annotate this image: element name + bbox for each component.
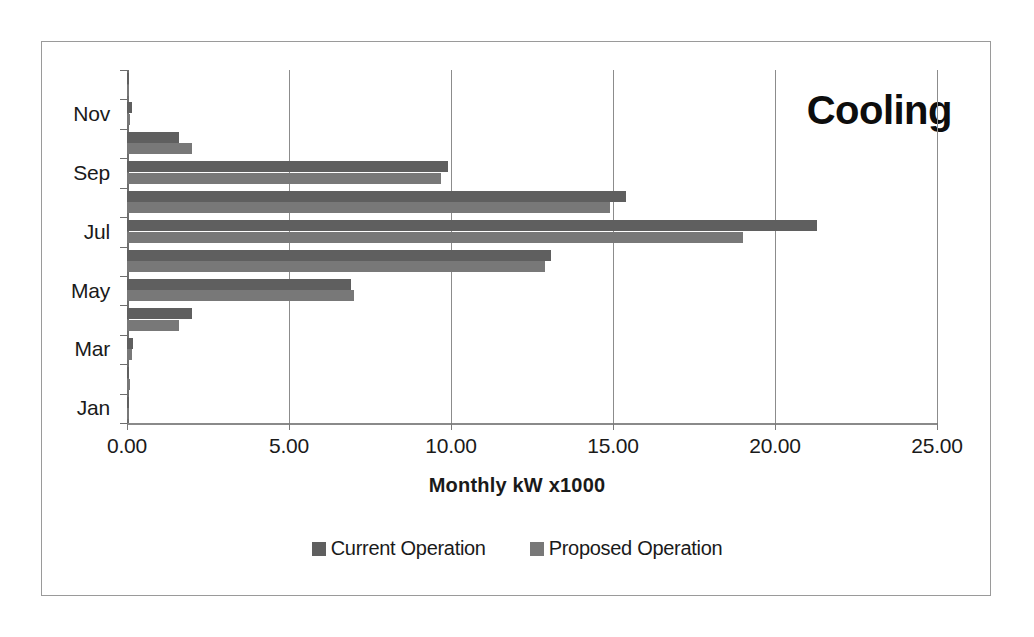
y-axis-tick [120,99,127,100]
y-axis-tick [120,247,127,248]
x-axis-label-5: 5.00 [269,434,309,458]
bar-aug-proposed [127,202,610,213]
legend-swatch-icon-proposed [530,542,544,556]
y-axis-tick [120,217,127,218]
x-axis-tick-25 [937,423,938,430]
bar-group-jun [127,247,937,276]
bar-jun-proposed [127,261,545,272]
bar-dec-proposed [127,85,129,96]
x-axis-tick-20 [775,423,776,430]
bar-apr-current [127,308,192,319]
bar-may-proposed [127,290,354,301]
y-axis-label-may: May [71,279,110,303]
y-axis-tick [120,394,127,395]
gridline-25 [937,70,938,423]
x-axis-label-20: 20.00 [749,434,801,458]
y-axis-label-jan: Jan [77,396,110,420]
bar-group-feb [127,364,937,393]
chart-legend: Current OperationProposed Operation [42,537,992,560]
x-axis-label-0: 0.00 [107,434,147,458]
plot-area [127,70,937,423]
bar-group-apr [127,305,937,334]
x-axis-label-25: 25.00 [911,434,963,458]
bar-nov-proposed [127,114,130,125]
y-axis-tick [120,158,127,159]
y-axis-tick [120,276,127,277]
bar-jan-proposed [127,408,129,419]
y-axis-tick [120,423,127,424]
x-axis-tick-15 [613,423,614,430]
legend-item-proposed[interactable]: Proposed Operation [530,537,723,560]
x-axis-label-15: 15.00 [587,434,639,458]
bar-jul-proposed [127,232,743,243]
bar-group-dec [127,70,937,99]
y-axis-tick [120,335,127,336]
bar-group-sep [127,158,937,187]
bar-jul-current [127,220,817,231]
bar-feb-current [127,367,129,378]
bar-dec-current [127,73,129,84]
x-axis-title: Monthly kW x1000 [42,474,992,497]
y-axis-tick [120,129,127,130]
y-axis-label-nov: Nov [73,102,110,126]
bar-group-jan [127,394,937,423]
x-axis-tick-0 [127,423,128,430]
y-axis-tick [120,364,127,365]
bar-oct-proposed [127,143,192,154]
bar-group-mar [127,335,937,364]
bar-jan-current [127,397,129,408]
bar-aug-current [127,191,626,202]
y-axis-tick [120,188,127,189]
y-axis-tick [120,70,127,71]
bar-group-jul [127,217,937,246]
legend-label-proposed: Proposed Operation [549,537,723,560]
y-axis-label-jul: Jul [84,220,110,244]
bar-mar-proposed [127,349,132,360]
bar-may-current [127,279,351,290]
bar-apr-proposed [127,320,179,331]
bar-nov-current [127,102,132,113]
bar-group-nov [127,99,937,128]
x-axis-tick-5 [289,423,290,430]
y-axis-labels: JanMarMayJulSepNov [42,70,116,423]
y-axis-label-mar: Mar [74,337,110,361]
legend-swatch-icon-current [312,542,326,556]
bar-group-may [127,276,937,305]
y-axis-label-sep: Sep [73,161,110,185]
bar-jun-current [127,250,551,261]
bar-feb-proposed [127,379,130,390]
legend-item-current[interactable]: Current Operation [312,537,486,560]
bar-sep-current [127,161,448,172]
bar-group-aug [127,188,937,217]
y-axis-tick [120,305,127,306]
x-axis-label-10: 10.00 [425,434,477,458]
bar-mar-current [127,338,133,349]
x-axis-tick-labels: 0.005.0010.0015.0020.0025.00 [42,434,992,466]
legend-label-current: Current Operation [331,537,486,560]
bar-oct-current [127,132,179,143]
bar-group-oct [127,129,937,158]
bar-sep-proposed [127,173,441,184]
x-axis-line [127,423,938,425]
chart-frame: Cooling JanMarMayJulSepNov 0.005.0010.00… [41,41,991,596]
x-axis-tick-10 [451,423,452,430]
